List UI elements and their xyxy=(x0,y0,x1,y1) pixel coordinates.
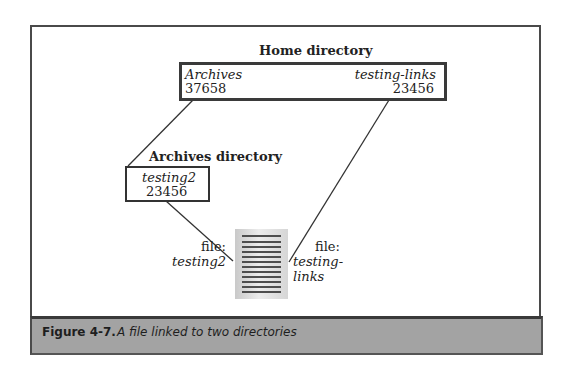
file-label-prefix: file: xyxy=(166,239,226,254)
home-entry-archives: Archives 37658 xyxy=(185,68,242,96)
figure-caption: Figure 4-7. A file linked to two directo… xyxy=(30,316,543,355)
file-label-name: testing-links xyxy=(293,254,373,284)
archives-directory-box: testing2 23456 xyxy=(125,166,210,202)
entry-name: testing2 xyxy=(142,171,196,185)
entry-name: Archives xyxy=(185,68,242,82)
archives-directory-title: Archives directory xyxy=(149,149,282,164)
file-label-prefix: file: xyxy=(293,239,373,254)
archives-entry-testing2: testing2 23456 xyxy=(142,171,196,199)
caption-label: Figure 4-7. xyxy=(42,325,116,339)
entry-inode: 23456 xyxy=(142,185,196,199)
file-label-name: testing2 xyxy=(166,254,226,269)
file-label-testing2: file: testing2 xyxy=(166,239,226,269)
home-directory-box: Archives 37658 testing-links 23456 xyxy=(179,62,447,101)
caption-text: A file linked to two directories xyxy=(117,325,297,339)
line-testing-links-to-file xyxy=(289,100,389,262)
entry-inode: 37658 xyxy=(185,82,242,96)
entry-name: testing-links xyxy=(355,68,436,82)
entry-inode: 23456 xyxy=(355,82,436,96)
home-entry-testing-links: testing-links 23456 xyxy=(355,68,436,96)
document-icon xyxy=(235,229,288,299)
file-label-testing-links: file: testing-links xyxy=(293,239,373,284)
home-directory-title: Home directory xyxy=(259,43,373,58)
